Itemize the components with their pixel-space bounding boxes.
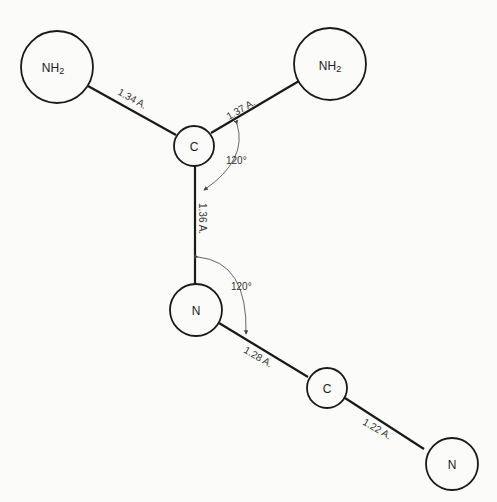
- atom-c-top: C: [174, 126, 214, 166]
- angle-label: 120°: [231, 281, 252, 292]
- svg-text:N: N: [448, 458, 457, 472]
- atom-n-mid: N: [170, 284, 222, 336]
- atom-n-terminal: N: [426, 438, 478, 490]
- bond-c-n-terminal: [345, 398, 424, 449]
- atom-nh2-left: NH2: [21, 31, 93, 103]
- bond-length-label: 1.36 A.: [197, 203, 208, 234]
- molecule-diagram: 1.34 A. 1.37 A. 1.36 A. 1.28 A. 1.22 A. …: [0, 0, 497, 502]
- atom-c-bottom: C: [307, 368, 347, 408]
- bond-n-c: [219, 323, 308, 377]
- svg-text:C: C: [323, 382, 332, 396]
- svg-text:C: C: [190, 140, 199, 154]
- svg-text:N: N: [192, 304, 201, 318]
- bond-length-label: 1.34 A.: [116, 86, 149, 111]
- atom-nh2-right: NH2: [294, 28, 366, 100]
- angle-label: 120°: [226, 155, 247, 166]
